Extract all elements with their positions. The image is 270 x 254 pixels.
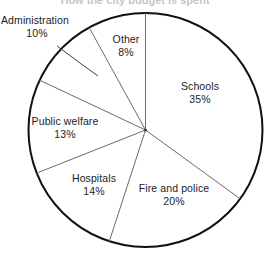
pie-center-dot (144, 128, 147, 131)
slice-label-hospitals: Hospitals 14% (58, 172, 130, 198)
slice-label-other-percent: 8% (99, 46, 153, 59)
slice-label-schools-percent: 35% (163, 93, 237, 106)
slice-label-public-welfare-percent: 13% (22, 128, 108, 141)
slice-label-public-welfare-name: Public welfare (22, 115, 108, 128)
slice-label-administration: Administration 10% (1, 14, 97, 40)
slice-label-schools-name: Schools (163, 80, 237, 93)
slice-label-hospitals-percent: 14% (58, 185, 130, 198)
slice-label-other: Other 8% (99, 33, 153, 59)
slice-label-fire-and-police-name: Fire and police (128, 182, 220, 195)
slice-label-administration-percent: 10% (1, 27, 73, 40)
slice-label-other-name: Other (99, 33, 153, 46)
slice-label-public-welfare: Public welfare 13% (22, 115, 108, 141)
slice-label-fire-and-police-percent: 20% (128, 195, 220, 208)
pie-chart-figure: How the city budget is spent Schools 35%… (0, 0, 270, 254)
slice-label-fire-and-police: Fire and police 20% (128, 182, 220, 208)
slice-label-administration-name: Administration (1, 14, 97, 27)
slice-label-hospitals-name: Hospitals (58, 172, 130, 185)
slice-label-schools: Schools 35% (163, 80, 237, 106)
